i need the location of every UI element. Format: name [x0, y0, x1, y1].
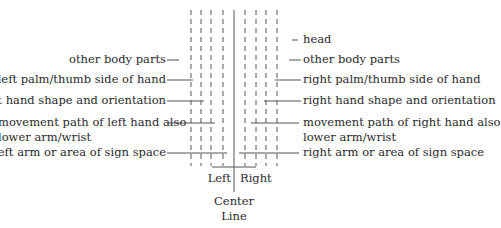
head-label: head — [303, 33, 331, 46]
left-arm-area-label: left arm or area of sign space — [0, 146, 166, 159]
center-line-label-2: Line — [204, 210, 264, 223]
left-side-label: Left — [208, 172, 231, 185]
sign-notation-diagram: head other body parts left palm/thumb si… — [0, 0, 501, 228]
right-side-label: Right — [240, 172, 272, 185]
left-palm-label: left palm/thumb side of hand — [0, 73, 166, 86]
left-hand-shape-label: left hand shape and orientation — [0, 94, 166, 107]
other-body-parts-left-label: other body parts — [69, 53, 166, 66]
right-palm-label: right palm/thumb side of hand — [303, 73, 481, 86]
right-hand-shape-label: right hand shape and orientation — [303, 94, 496, 107]
other-body-parts-right-label: other body parts — [303, 53, 400, 66]
right-arm-area-label: right arm or area of sign space — [303, 146, 484, 159]
left-lower-arm-label: lower arm/wrist — [0, 131, 91, 144]
right-lower-arm-label: lower arm/wrist — [303, 131, 396, 144]
right-movement-label: movement path of right hand also — [303, 116, 501, 129]
left-movement-label: movement path of left hand also — [0, 116, 186, 129]
center-line-label-1: Center — [204, 195, 264, 208]
